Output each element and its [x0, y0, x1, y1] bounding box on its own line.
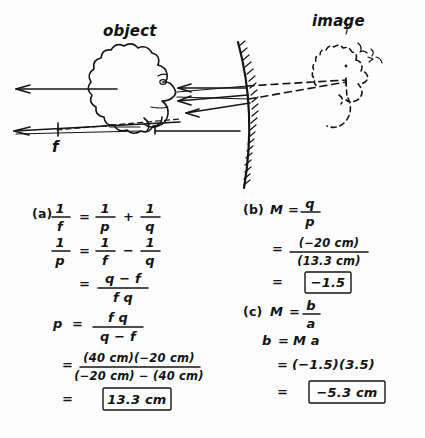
- a4-numerator: f q: [108, 310, 128, 325]
- a3-numerator: q − f: [105, 271, 143, 286]
- a1-term2-denominator: q: [145, 219, 155, 234]
- a1-equals: =: [79, 209, 90, 224]
- c4-equals: =: [277, 384, 288, 399]
- a1-operator: +: [123, 209, 134, 224]
- part-a-line-3: = q − f f q: [79, 271, 148, 305]
- c1-numerator: b: [306, 298, 316, 313]
- a1-term1-numerator: 1: [100, 201, 109, 216]
- part-c-tag: (c): [243, 304, 262, 319]
- part-a-line-1: 1 f = 1 p + 1 q: [52, 201, 160, 234]
- a2-term1-numerator: 1: [100, 235, 109, 250]
- b1-lhs: M: [270, 202, 283, 217]
- c1-denominator: a: [307, 316, 316, 331]
- c2-equals: =: [278, 333, 289, 348]
- a4-equals: =: [72, 316, 83, 331]
- part-c-line-1: M = b a: [270, 298, 320, 331]
- a1-lhs-denominator: f: [57, 219, 65, 234]
- a6-equals: =: [62, 391, 73, 406]
- b1-numerator: q: [305, 196, 315, 211]
- a2-term1-denominator: f: [102, 253, 110, 268]
- a5-numerator: (40 cm)(−20 cm): [83, 351, 194, 365]
- a2-term2-numerator: 1: [145, 235, 154, 250]
- part-a-answer: 13.3 cm: [107, 392, 166, 407]
- b2-denominator: (13.3 cm): [297, 254, 361, 268]
- part-b-line-1: M = q p: [270, 196, 320, 229]
- a4-denominator: q − f: [100, 329, 138, 344]
- a2-lhs-denominator: p: [54, 253, 65, 268]
- part-a-line-2: 1 p = 1 f − 1 q: [52, 235, 160, 268]
- a5-denominator: (−20 cm) − (40 cm): [74, 369, 204, 383]
- a1-term2-numerator: 1: [145, 201, 154, 216]
- part-c-answer: −5.3 cm: [316, 385, 377, 400]
- part-c-line-3: = (−1.5)(3.5): [277, 357, 375, 372]
- c2-lhs: b: [262, 333, 272, 348]
- b2-equals: =: [272, 241, 283, 256]
- c3-equals: =: [277, 357, 288, 372]
- worked-solution: (a) 1 f = 1 p + 1 q 1 p =: [0, 0, 425, 438]
- part-b-block: (b) M = q p = (−20 cm) (13.3 cm) = −1.5: [243, 196, 368, 293]
- worksheet-page: object image f: [0, 0, 425, 438]
- a2-term2-denominator: q: [145, 253, 155, 268]
- part-c-block: (c) M = b a b = M a = (−1.5)(3.5): [243, 298, 385, 403]
- a1-term1-denominator: p: [99, 219, 110, 234]
- a5-equals: =: [62, 357, 73, 372]
- part-a-block: (a) 1 f = 1 p + 1 q 1 p =: [32, 201, 204, 410]
- b2-numerator: (−20 cm): [299, 236, 360, 250]
- a3-denominator: f q: [113, 290, 133, 305]
- part-b-line-2: = (−20 cm) (13.3 cm): [272, 236, 368, 268]
- part-b-tag: (b): [243, 202, 264, 217]
- part-a-line-6: = 13.3 cm: [62, 388, 171, 410]
- a2-equals: =: [79, 243, 90, 258]
- a3-equals: =: [79, 276, 90, 291]
- b1-denominator: p: [304, 214, 315, 229]
- part-b-line-3: = −1.5: [272, 272, 351, 293]
- a4-lhs: p: [52, 316, 63, 331]
- part-c-line-4: = −5.3 cm: [277, 381, 385, 403]
- part-c-line-2: b = M a: [262, 333, 320, 348]
- c1-lhs: M: [270, 304, 283, 319]
- c2-rhs: M a: [293, 333, 320, 348]
- c1-equals: =: [289, 304, 300, 319]
- part-b-answer: −1.5: [311, 275, 346, 290]
- part-a-line-4: p = f q q − f: [52, 310, 143, 344]
- part-a-line-5: = (40 cm)(−20 cm) (−20 cm) − (40 cm): [62, 351, 204, 383]
- a1-lhs-numerator: 1: [55, 201, 64, 216]
- b3-equals: =: [272, 274, 283, 289]
- part-a-tag: (a): [32, 206, 52, 221]
- a2-operator: −: [123, 243, 134, 258]
- c3-rhs: (−1.5)(3.5): [292, 357, 375, 372]
- a2-lhs-numerator: 1: [55, 235, 64, 250]
- b1-equals: =: [288, 202, 299, 217]
